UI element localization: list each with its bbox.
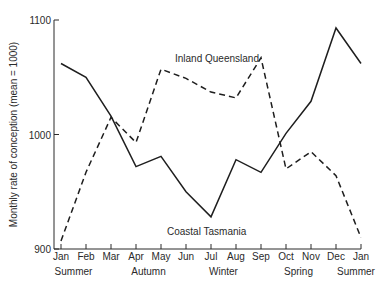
line-chart: 90010001100JanFebMarAprMayJunJulAugSepOc… (0, 0, 382, 296)
season-label: Autumn (131, 266, 165, 277)
x-tick-label: Oct (278, 251, 294, 262)
x-tick-label: Jul (205, 251, 218, 262)
season-label: Summer (55, 266, 93, 277)
series-annotation: Coastal Tasmania (167, 226, 247, 237)
x-tick-label: Aug (227, 251, 245, 262)
series-annotation: Inland Queensland (175, 53, 259, 64)
y-tick-label: 1100 (29, 15, 51, 26)
x-tick-label: Mar (102, 251, 120, 262)
x-tick-label: Dec (327, 251, 345, 262)
x-tick-label: Sep (252, 251, 270, 262)
x-tick-label: Apr (128, 251, 144, 262)
x-tick-label: Jan (353, 251, 369, 262)
season-label: Winter (209, 266, 239, 277)
y-tick-label: 900 (34, 244, 51, 255)
season-label: Summer (337, 266, 375, 277)
y-axis-label: Monthly rate of conception (mean = 1000) (8, 42, 19, 227)
x-tick-label: Feb (77, 251, 95, 262)
season-label: Spring (284, 266, 313, 277)
x-tick-label: Nov (302, 251, 320, 262)
x-tick-label: Jun (178, 251, 194, 262)
x-tick-label: Jan (53, 251, 69, 262)
x-tick-label: May (152, 251, 171, 262)
y-tick-label: 1000 (29, 130, 52, 141)
